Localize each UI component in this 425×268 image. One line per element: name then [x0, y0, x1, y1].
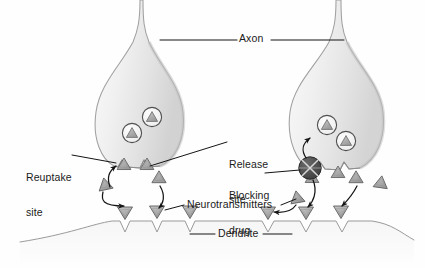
reuptake-arrow	[108, 166, 116, 187]
left-neurotransmitters	[97, 158, 198, 219]
blocking-drug-molecule	[299, 157, 321, 179]
neurotransmitter	[334, 206, 349, 219]
right-axon-terminal	[289, 0, 383, 170]
dendrite-membrane	[20, 221, 414, 262]
label-reuptake-site: Reuptake site	[26, 148, 72, 242]
blocking-drug-leader	[265, 170, 300, 173]
neurotransmitter	[150, 206, 165, 219]
release-arrow-right-2	[342, 186, 357, 206]
neurotransmitter	[118, 207, 133, 220]
vesicle	[317, 115, 336, 134]
right-neurotransmitters	[261, 166, 389, 219]
left-axon-terminal	[95, 0, 183, 168]
label-neurotransmitters: Neurotransmitters	[187, 199, 272, 211]
vesicle	[122, 123, 141, 142]
label-dendrite: Dendrite	[218, 228, 259, 240]
synapse-diagram: Axon Reuptake site Release site Blocking…	[0, 0, 425, 268]
vesicle	[336, 131, 355, 150]
nt-leader-left	[165, 205, 184, 210]
release-arrow	[159, 186, 163, 208]
neurotransmitter	[152, 171, 166, 183]
neurotransmitter	[373, 175, 389, 189]
label-axon: Axon	[239, 33, 263, 45]
release-arrow-right	[308, 180, 315, 207]
neurotransmitter	[97, 176, 113, 191]
neurotransmitter	[289, 190, 305, 204]
diffusion-arrow-right	[274, 205, 296, 212]
label-blocking-drug: Blocking drug	[229, 166, 270, 260]
neurotransmitter	[349, 171, 363, 183]
diffusion-arrow	[102, 192, 124, 206]
neurotransmitter	[299, 207, 314, 220]
label-reuptake-site-line1: Reuptake	[26, 172, 72, 184]
vesicle	[142, 107, 161, 126]
label-reuptake-site-line2: site	[26, 207, 72, 219]
